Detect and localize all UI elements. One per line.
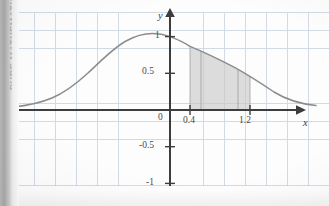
- figure-canvas: 1 0.5 0 -0.5 -1 0.4 1.2 y x PURE MATHEMA…: [0, 0, 329, 206]
- y-axis: [165, 8, 175, 186]
- bell-curve-line: [13, 34, 316, 107]
- x-axis-arrowhead: [296, 105, 306, 115]
- y-tick-label-1: 1: [155, 30, 160, 40]
- shaded-area-group: [190, 46, 250, 110]
- shaded-area-under-curve: [190, 46, 250, 110]
- y-tick-label-neg-0-5: -0.5: [139, 140, 154, 150]
- y-tick-label-0-5: 0.5: [142, 66, 154, 76]
- y-axis-arrowhead: [165, 8, 175, 17]
- x-tick-label-0-4: 0.4: [183, 115, 195, 125]
- x-tick-label-1-2: 1.2: [239, 115, 251, 125]
- x-axis-name-label: x: [303, 117, 308, 128]
- y-axis-name-label: y: [158, 10, 163, 21]
- book-page-margin-strip: PURE MATHEMATICS: [0, 0, 12, 206]
- plot-area: [0, 0, 329, 206]
- book-margin-shadow: [12, 0, 19, 206]
- y-tick-label-neg-1: -1: [146, 177, 154, 187]
- origin-label: 0: [158, 112, 163, 122]
